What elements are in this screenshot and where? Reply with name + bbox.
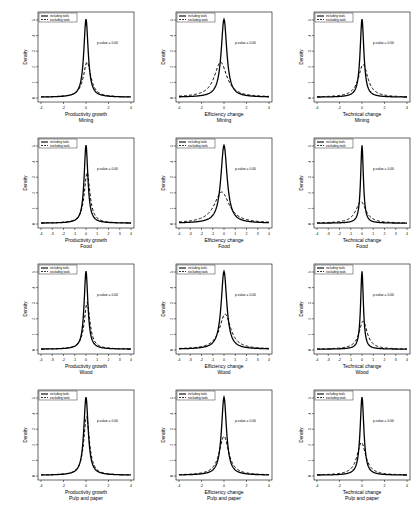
x-tick-label: 2 xyxy=(108,358,110,362)
x-tick-label: 4 xyxy=(130,232,132,236)
x-tick-label: 0 xyxy=(361,106,363,110)
y-tick-label: 0 xyxy=(32,475,36,477)
legend-excluding-label: excluding tools xyxy=(188,144,208,148)
y-tick-label: 1 xyxy=(32,81,36,83)
legend-excluding-label: excluding tools xyxy=(326,270,346,274)
excluding-tools-curve xyxy=(317,442,407,474)
x-tick-label: 4 xyxy=(406,106,408,110)
x-tick-label: -4 xyxy=(39,106,42,110)
y-tick-label: 2 xyxy=(32,318,36,320)
p-value-annotation: p-value = 0.00 xyxy=(97,293,118,297)
y-tick-label: 2 xyxy=(170,318,174,320)
y-tick-label: 2 xyxy=(170,66,174,68)
p-value-annotation: p-value = 0.00 xyxy=(235,167,256,171)
legend-excluding-label: excluding tools xyxy=(188,270,208,274)
legend-excluding-label: excluding tools xyxy=(50,270,70,274)
including-tools-curve xyxy=(179,397,269,475)
density-panel: -4-3-2-101234012345including toolsexclud… xyxy=(140,128,278,254)
y-tick-label: 4 xyxy=(308,34,312,36)
sector-label: Pulp and paper xyxy=(69,495,103,501)
y-tick-label: 1 xyxy=(32,207,36,209)
x-tick-label: 0 xyxy=(223,484,225,488)
x-tick-label: 0 xyxy=(361,358,363,362)
y-axis-label: Density xyxy=(23,301,28,317)
y-tick-label: 2 xyxy=(308,192,312,194)
y-tick-label: 1 xyxy=(170,333,174,335)
excluding-tools-curve xyxy=(179,62,269,96)
x-tick-label: -2 xyxy=(200,106,203,110)
legend-excluding-label: excluding tools xyxy=(326,18,346,22)
y-tick-label: 4 xyxy=(308,286,312,288)
y-tick-label: 4 xyxy=(32,412,36,414)
y-tick-label: 0 xyxy=(32,97,36,99)
y-tick-label: 3 xyxy=(308,428,312,430)
x-tick-label: -4 xyxy=(315,358,318,362)
excluding-tools-curve xyxy=(317,65,407,97)
y-tick-label: 1 xyxy=(308,207,312,209)
legend-excluding-label: excluding tools xyxy=(50,396,70,400)
x-tick-label: -4 xyxy=(39,358,42,362)
x-tick-label: 0 xyxy=(361,484,363,488)
y-tick-label: 0 xyxy=(308,223,312,225)
x-tick-label: -1 xyxy=(349,232,352,236)
y-tick-label: 3 xyxy=(32,176,36,178)
density-panel: -4-2024012345including toolsexcluding to… xyxy=(140,2,278,128)
x-tick-label: 3 xyxy=(395,232,397,236)
x-tick-label: 2 xyxy=(246,232,248,236)
excluding-tools-curve xyxy=(179,192,269,222)
plot-frame xyxy=(176,12,272,102)
x-tick-label: -4 xyxy=(315,484,318,488)
x-tick-label: 4 xyxy=(268,484,270,488)
y-tick-label: 5 xyxy=(32,19,36,21)
x-tick-label: 0 xyxy=(361,232,363,236)
including-tools-curve xyxy=(179,271,269,349)
density-panel: -4-2024012345including toolsexcluding to… xyxy=(278,2,416,128)
x-tick-label: 3 xyxy=(119,232,121,236)
y-axis-label: Density xyxy=(23,427,28,443)
y-axis-label: Density xyxy=(23,175,28,191)
x-tick-label: -1 xyxy=(73,358,76,362)
x-tick-label: 4 xyxy=(130,106,132,110)
x-tick-label: 3 xyxy=(257,358,259,362)
y-tick-label: 0 xyxy=(308,97,312,99)
y-axis-label: Density xyxy=(299,49,304,65)
x-tick-label: 1 xyxy=(96,232,98,236)
x-tick-label: -3 xyxy=(327,232,330,236)
sector-label: Mining xyxy=(217,117,232,123)
y-tick-label: 1 xyxy=(170,459,174,461)
y-tick-label: 5 xyxy=(170,397,174,399)
y-tick-label: 2 xyxy=(308,444,312,446)
sector-label: Pulp and paper xyxy=(345,495,379,501)
x-tick-label: 0 xyxy=(85,358,87,362)
y-axis-label: Density xyxy=(299,427,304,443)
p-value-annotation: p-value = 0.00 xyxy=(373,419,394,423)
y-tick-label: 5 xyxy=(32,145,36,147)
y-tick-label: 0 xyxy=(32,223,36,225)
p-value-annotation: p-value = 0.00 xyxy=(373,167,394,171)
density-panel: -4-3-2-101234012345including toolsexclud… xyxy=(140,254,278,380)
sector-label: Food xyxy=(218,243,230,249)
density-panel: -4-2024012345including toolsexcluding to… xyxy=(2,2,140,128)
x-tick-label: 4 xyxy=(406,358,408,362)
y-tick-label: 3 xyxy=(32,50,36,52)
y-tick-label: 4 xyxy=(170,34,174,36)
x-tick-label: 0 xyxy=(85,232,87,236)
x-tick-label: -2 xyxy=(62,358,65,362)
x-tick-label: 2 xyxy=(108,106,110,110)
legend-excluding-label: excluding tools xyxy=(50,144,70,148)
density-panel: -4-2024012345including toolsexcluding to… xyxy=(278,380,416,506)
x-tick-label: -3 xyxy=(51,358,54,362)
x-tick-label: 1 xyxy=(234,358,236,362)
x-tick-label: -2 xyxy=(62,484,65,488)
x-tick-label: -3 xyxy=(327,358,330,362)
including-tools-curve xyxy=(317,397,407,475)
y-tick-label: 0 xyxy=(170,475,174,477)
x-tick-label: -4 xyxy=(39,484,42,488)
y-tick-label: 4 xyxy=(308,160,312,162)
y-tick-label: 2 xyxy=(308,318,312,320)
density-panel: -4-2024012345including toolsexcluding to… xyxy=(140,380,278,506)
y-tick-label: 3 xyxy=(170,428,174,430)
excluding-tools-curve xyxy=(41,173,131,223)
p-value-annotation: p-value = 0.00 xyxy=(97,167,118,171)
y-tick-label: 0 xyxy=(308,349,312,351)
